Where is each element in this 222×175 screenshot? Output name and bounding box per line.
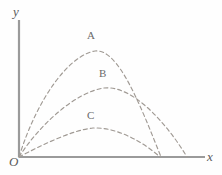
curve-label-a: A xyxy=(87,30,95,41)
x-axis-label: x xyxy=(207,150,213,163)
trajectory-curve-a xyxy=(19,51,161,157)
y-axis-label: y xyxy=(13,5,19,18)
curve-label-c: C xyxy=(87,110,94,121)
origin-label: O xyxy=(9,155,18,168)
curve-label-b: B xyxy=(99,68,106,79)
trajectory-curve-c xyxy=(19,128,160,157)
projectile-trajectory-figure: y x O A B C xyxy=(0,0,222,175)
plot-canvas xyxy=(0,0,222,175)
